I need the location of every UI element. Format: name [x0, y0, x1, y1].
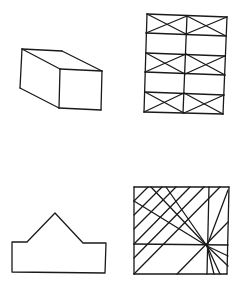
box-line: [101, 71, 102, 110]
braced-grid-line: [223, 17, 227, 114]
ray-square-line: [207, 190, 228, 246]
ray-square-line: [166, 187, 207, 246]
box-line: [59, 108, 101, 110]
box-line: [59, 69, 60, 108]
ray-square-line: [134, 187, 148, 201]
ray-square-line: [134, 187, 190, 244]
box-figure: [20, 49, 102, 110]
braced-grid-line: [145, 54, 186, 72]
braced-grid-line: [144, 14, 147, 112]
house-outline-figure: [12, 213, 106, 273]
house-outline-shape: [12, 213, 106, 273]
box-line: [60, 69, 102, 71]
braced-grid-line: [184, 95, 224, 113]
braced-grid-line: [183, 16, 187, 113]
braced-grid-figure: [144, 14, 227, 114]
box-line: [22, 49, 62, 51]
ray-square-figure: [134, 187, 229, 274]
box-line: [20, 49, 22, 88]
box-line: [20, 88, 59, 108]
ray-square-line: [227, 187, 229, 274]
box-line: [62, 51, 102, 71]
ray-square-line: [177, 222, 228, 274]
ray-square-line: [134, 187, 162, 215]
braced-grid-line: [146, 16, 187, 33]
box-line: [22, 49, 60, 69]
figure-canvas: [0, 0, 241, 289]
braced-grid-line: [186, 17, 227, 34]
ray-square-line: [207, 246, 228, 256]
